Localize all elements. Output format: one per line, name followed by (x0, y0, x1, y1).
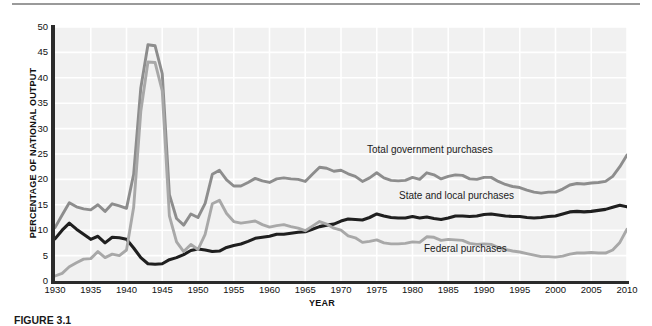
x-tick-label: 1930 (35, 284, 75, 295)
x-tick-label: 1980 (393, 284, 433, 295)
y-tick-label: 40 (22, 73, 48, 83)
x-tick-label: 1950 (178, 284, 218, 295)
x-tick-label: 1975 (357, 284, 397, 295)
y-tick-label: 10 (22, 225, 48, 235)
y-tick-label: 50 (22, 22, 48, 32)
x-tick-label: 1985 (428, 284, 468, 295)
y-tick-label: 5 (22, 251, 48, 261)
x-tick-label: 1940 (107, 284, 147, 295)
figure-caption: FIGURE 3.1 (14, 314, 71, 326)
series-label-total-government: Total government purchases (367, 144, 493, 155)
x-tick-label: 1960 (250, 284, 290, 295)
x-tick-label: 1935 (71, 284, 111, 295)
y-tick-label: 35 (22, 98, 48, 108)
x-axis-title: YEAR (282, 298, 362, 308)
x-tick-label: 2000 (536, 284, 576, 295)
plot-area (55, 27, 627, 281)
x-tick-label: 2010 (607, 284, 647, 295)
series-label-federal: Federal purchases (424, 243, 507, 254)
x-tick-label: 1990 (464, 284, 504, 295)
y-axis-line (51, 25, 55, 283)
series-lines (55, 27, 627, 281)
y-tick-label: 30 (22, 124, 48, 134)
x-tick-label: 1955 (214, 284, 254, 295)
x-tick-label: 2005 (571, 284, 611, 295)
y-tick-label: 15 (22, 200, 48, 210)
y-tick-label: 25 (22, 149, 48, 159)
x-tick-label: 1970 (321, 284, 361, 295)
y-axis-tick-labels: 05101520253035404550 (20, 0, 48, 323)
x-tick-label: 1945 (142, 284, 182, 295)
y-tick-label: 45 (22, 47, 48, 57)
top-divider-rule (12, 3, 640, 5)
series-label-state-and-local: State and local purchases (399, 190, 514, 201)
y-tick-label: 20 (22, 174, 48, 184)
x-tick-label: 1965 (285, 284, 325, 295)
series-path-0 (55, 45, 627, 228)
x-tick-label: 1995 (500, 284, 540, 295)
